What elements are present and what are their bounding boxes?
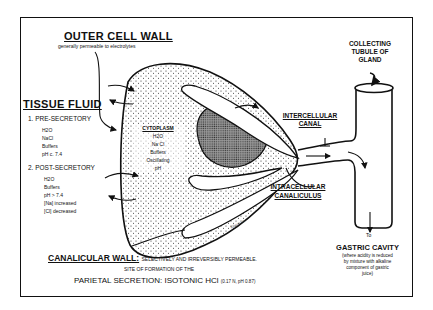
site-of-formation: SITE OF FORMATION OF THE bbox=[124, 266, 194, 272]
to-label: To bbox=[366, 232, 371, 238]
gastric-cavity-title: GASTRIC CAVITY bbox=[325, 243, 410, 252]
pre-secretory-list: H2O NaCl Buffers pH c. 7.4 bbox=[42, 126, 62, 158]
gastric-cavity-note: (where acidity is reduced by mixture wit… bbox=[325, 253, 410, 277]
intracellular-canaliculus-label: INTRACELLULAR CANALICULUS bbox=[258, 182, 338, 200]
intercellular-canal-label: INTERCELLULAR CANAL bbox=[270, 112, 350, 128]
outer-cell-wall-title: OUTER CELL WALL bbox=[64, 30, 173, 42]
outer-cell-wall-subtitle: generally permeable to electrolytes bbox=[58, 43, 136, 49]
cytoplasm-label: CYTOPLASM H2O Na Cl Buffers Oscillating … bbox=[132, 124, 184, 172]
canalicular-wall-line: CANALICULAR WALL: SELECTIVELY AND IRREVE… bbox=[48, 253, 257, 263]
tissue-fluid-title: TISSUE FLUID bbox=[23, 98, 102, 110]
tubule bbox=[298, 73, 393, 228]
post-secretory-heading: 2. POST-SECRETORY bbox=[28, 164, 95, 171]
collecting-tubule-label: COLLECTING TUBULE OF GLAND bbox=[335, 40, 405, 64]
pre-secretory-heading: 1. PRE-SECRETORY bbox=[28, 115, 91, 122]
parietal-secretion-line: PARIETAL SECRETION: ISOTONIC HCl (0.17 N… bbox=[74, 276, 255, 285]
post-secretory-list: H2O Buffers pH > 7.4 [Na] increased [Cl]… bbox=[44, 175, 76, 215]
